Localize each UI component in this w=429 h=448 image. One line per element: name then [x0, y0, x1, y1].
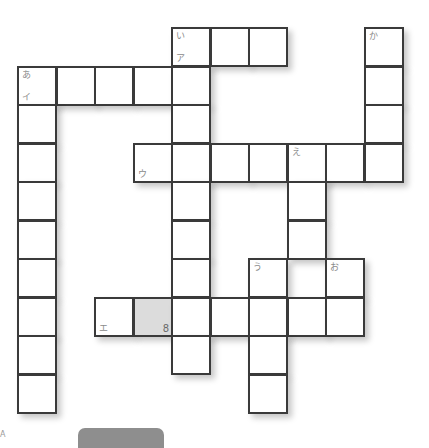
crossword-cell[interactable]: お	[325, 258, 365, 298]
crossword-cell[interactable]	[171, 297, 211, 337]
bottom-tab-button[interactable]	[78, 428, 164, 448]
crossword-cell[interactable]	[171, 66, 211, 106]
crossword-cell[interactable]	[364, 104, 404, 144]
crossword-cell[interactable]	[17, 374, 57, 414]
clue-number-label: ウ	[138, 169, 147, 179]
crossword-cell[interactable]	[248, 374, 288, 414]
crossword-cell[interactable]	[210, 297, 250, 337]
crossword-cell[interactable]	[171, 220, 211, 260]
clue-number-label: え	[292, 147, 301, 157]
crossword-cell[interactable]: う	[248, 258, 288, 298]
crossword-cell[interactable]	[94, 66, 134, 106]
crossword-cell[interactable]	[17, 220, 57, 260]
crossword-cell[interactable]	[364, 143, 404, 183]
crossword-cell[interactable]	[171, 104, 211, 144]
crossword-cell[interactable]: 8	[133, 297, 173, 337]
crossword-cell[interactable]: か	[364, 27, 404, 67]
crossword-cell[interactable]	[287, 220, 327, 260]
crossword-cell[interactable]: え	[287, 143, 327, 183]
clue-number-label: お	[330, 262, 339, 272]
clue-number-label: い	[176, 31, 185, 41]
crossword-cell[interactable]	[171, 143, 211, 183]
crossword-cell[interactable]	[133, 66, 173, 106]
crossword-cell[interactable]: いア	[171, 27, 211, 67]
crossword-cell[interactable]	[325, 297, 365, 337]
crossword-cell[interactable]	[248, 143, 288, 183]
crossword-cell[interactable]	[210, 27, 250, 67]
crossword-cell[interactable]	[17, 143, 57, 183]
clue-number-label: エ	[99, 323, 108, 333]
crossword-cell[interactable]	[287, 181, 327, 221]
clue-number-label: ア	[176, 53, 185, 63]
crossword-cell[interactable]	[171, 181, 211, 221]
crossword-cell[interactable]	[17, 297, 57, 337]
crossword-cell[interactable]: エ	[94, 297, 134, 337]
crossword-cell[interactable]	[210, 143, 250, 183]
crossword-cell[interactable]	[325, 143, 365, 183]
crossword-cell[interactable]	[17, 181, 57, 221]
clue-number-label: イ	[22, 92, 31, 102]
crossword-cell[interactable]	[248, 335, 288, 375]
crossword-cell[interactable]	[287, 297, 327, 337]
clue-number-label: う	[253, 262, 262, 272]
clue-number-label: 8	[163, 324, 169, 334]
crossword-cell[interactable]	[17, 258, 57, 298]
crossword-cell[interactable]	[56, 66, 96, 106]
crossword-cell[interactable]: ウ	[133, 143, 173, 183]
crossword-cell[interactable]	[248, 297, 288, 337]
crossword-cell[interactable]	[17, 335, 57, 375]
crossword-cell[interactable]: あイ	[17, 66, 57, 106]
crossword-cell[interactable]	[171, 258, 211, 298]
crossword-cell[interactable]	[17, 104, 57, 144]
crossword-cell[interactable]	[171, 335, 211, 375]
corner-mark: A	[0, 430, 5, 439]
clue-number-label: か	[369, 31, 378, 41]
crossword-cell[interactable]	[248, 27, 288, 67]
clue-number-label: あ	[22, 70, 31, 80]
crossword-cell[interactable]	[364, 66, 404, 106]
